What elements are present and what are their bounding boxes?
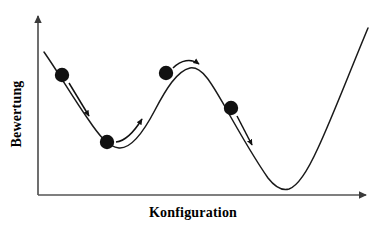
figure-canvas (0, 0, 386, 228)
y-axis-label: Bewertung (9, 80, 25, 147)
ball-1-marker (55, 68, 69, 82)
ball-1-direction-arrow (69, 83, 89, 116)
ball-3-direction-arrow (173, 61, 199, 68)
energy-curve (44, 28, 368, 190)
ball-2-marker (100, 135, 114, 149)
ball-4-group (224, 101, 252, 145)
ball-3-group (159, 61, 199, 81)
ball-4-marker (224, 101, 238, 115)
ball-1-group (55, 68, 89, 116)
ball-2-group (100, 119, 142, 149)
x-axis-label: Konfiguration (0, 205, 386, 221)
ball-3-marker (159, 66, 173, 80)
energy-landscape-figure: Konfiguration Bewertung (0, 0, 386, 228)
y-axis-label-container: Bewertung (0, 0, 34, 228)
ball-2-direction-arrow (116, 119, 142, 142)
